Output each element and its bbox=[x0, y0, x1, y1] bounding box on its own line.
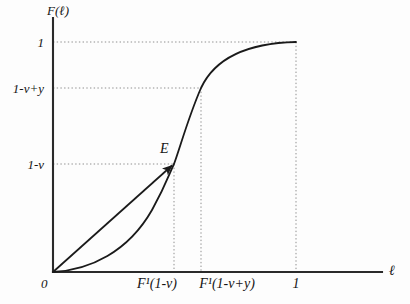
cdf-figure: F(ℓ) 1 1-v+y 1-v 0 F¹(1-v) F¹(1-v+y) 1 ℓ… bbox=[0, 0, 410, 304]
y-axis-label: F(ℓ) bbox=[47, 4, 69, 17]
point-label-E: E bbox=[160, 142, 169, 156]
y-tick-label-one: 1 bbox=[38, 36, 45, 49]
y-tick-label-one-minus-v-plus-y: 1-v+y bbox=[13, 82, 44, 95]
chord-to-E bbox=[53, 166, 172, 273]
plot-canvas bbox=[0, 0, 410, 304]
origin-label: 0 bbox=[41, 277, 48, 290]
x-axis-label: ℓ bbox=[389, 264, 395, 278]
x-tick-label-one: 1 bbox=[293, 277, 300, 291]
x-tick-label-f-inverse-one-minus-v-plus-y: F¹(1-v+y) bbox=[199, 277, 255, 291]
y-tick-label-one-minus-v: 1-v bbox=[27, 158, 44, 171]
cdf-curve bbox=[53, 42, 296, 272]
x-tick-label-f-inverse-one-minus-v: F¹(1-v) bbox=[137, 277, 177, 291]
